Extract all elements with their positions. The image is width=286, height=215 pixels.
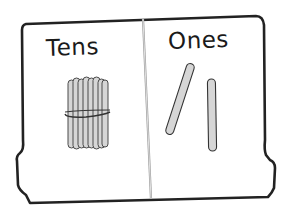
ten-stick-bundle-icon bbox=[65, 77, 110, 149]
ones-column-label: Ones bbox=[168, 26, 230, 54]
tens-column-label: Tens bbox=[46, 33, 100, 61]
mat-outline bbox=[0, 0, 286, 215]
one-stick-icon bbox=[207, 79, 216, 151]
